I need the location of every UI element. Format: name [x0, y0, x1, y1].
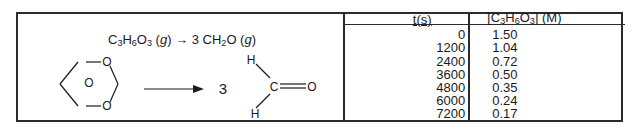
atom-c: C [270, 80, 279, 94]
atom-o: O [102, 55, 111, 69]
coefficient-label: 3 [219, 80, 227, 97]
reaction-arrow-icon [144, 85, 204, 93]
table-row: 36000.50 [345, 68, 621, 81]
atom-h: H [251, 107, 260, 120]
header-concentration: [C3H6O3] (M) [465, 11, 621, 28]
atom-o: O [307, 80, 316, 94]
table-row: 12001.04 [345, 41, 621, 54]
table-row: 01.50 [345, 28, 621, 41]
atom-o: O [102, 99, 111, 113]
reaction-panel: C3H6O3 (g) → 3 CH2O (g) O O O [18, 14, 343, 120]
atom-o: O [84, 76, 93, 90]
formaldehyde-structure [256, 64, 306, 108]
data-table-panel: t(s) [C3H6O3] (M) 01.50 12001.04 24000.7… [345, 14, 621, 120]
kinetics-table: t(s) [C3H6O3] (M) 01.50 12001.04 24000.7… [345, 11, 621, 121]
table-row: 48000.35 [345, 81, 621, 94]
table-row: 72000.17 [345, 107, 621, 120]
figure-frame: C3H6O3 (g) → 3 CH2O (g) O O O [16, 12, 623, 122]
atom-h: H [247, 53, 256, 67]
table-header-row: t(s) [C3H6O3] (M) [345, 11, 621, 28]
header-time: t(s) [345, 11, 465, 28]
table-row: 24000.72 [345, 55, 621, 68]
table-row: 60000.24 [345, 94, 621, 107]
structural-diagram: O O O 3 H H C O [18, 14, 343, 120]
